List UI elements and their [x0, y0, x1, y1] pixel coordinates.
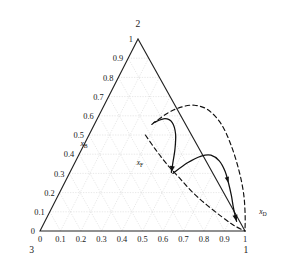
bottom-tick-label: 1 — [243, 235, 247, 244]
component-label-bottom-left: 3 — [29, 244, 34, 255]
bottom-tick-label: 0.2 — [76, 235, 86, 244]
bottom-tick-label: 0.4 — [117, 235, 128, 244]
bottom-tick-label: 0.1 — [55, 235, 65, 244]
left-tick-label: 0.3 — [54, 170, 64, 179]
left-tick-label: 0.7 — [93, 93, 103, 102]
left-tick-label: 0.2 — [44, 189, 54, 198]
left-tick-label: 0.1 — [34, 208, 44, 217]
bottom-tick-label: 0.8 — [199, 235, 209, 244]
left-tick-label: 0.9 — [113, 54, 123, 63]
bottom-tick-label: 0.5 — [137, 235, 147, 244]
component-label-bottom-right: 1 — [244, 244, 249, 255]
bottom-tick-label: 0 — [38, 235, 42, 244]
bottom-tick-label: 0.3 — [96, 235, 106, 244]
left-tick-label: 0 — [31, 227, 35, 236]
left-tick-label: 0.8 — [103, 74, 113, 83]
left-tick-label: 0.4 — [64, 150, 75, 159]
left-tick-label: 0.6 — [83, 112, 93, 121]
component-label-top: 2 — [136, 18, 141, 29]
left-tick-label: 1 — [129, 35, 133, 44]
bottom-tick-label: 0.9 — [219, 235, 229, 244]
bottom-tick-label: 0.6 — [158, 235, 168, 244]
ternary-diagram: 00.10.20.30.40.50.60.70.80.9100.10.20.30… — [0, 0, 288, 278]
bottom-tick-label: 0.7 — [178, 235, 188, 244]
